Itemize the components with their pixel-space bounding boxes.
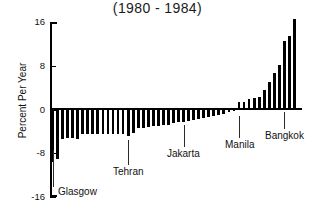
- chart-title: (1980 - 1984): [0, 0, 315, 16]
- bar: [197, 110, 200, 120]
- bar: [112, 110, 115, 134]
- annotation-label: Bangkok: [265, 130, 304, 141]
- y-axis-label: Percent Per Year: [17, 41, 28, 161]
- y-tick-label: -16: [0, 191, 45, 202]
- annotation-leader-line: [128, 140, 129, 165]
- bar: [91, 110, 94, 134]
- bar: [157, 110, 160, 126]
- bar: [228, 110, 231, 113]
- bar: [107, 110, 110, 134]
- annotation-leader-line: [284, 112, 285, 129]
- bar: [222, 110, 225, 114]
- bar: [117, 110, 120, 134]
- bar: [182, 110, 185, 122]
- bar: [66, 110, 69, 139]
- y-tick-mark: [50, 197, 56, 198]
- bar: [212, 110, 215, 117]
- y-tick-label: 16: [0, 16, 45, 27]
- bar: [177, 110, 180, 123]
- annotation-label: Manila: [225, 139, 254, 150]
- bar: [278, 65, 281, 109]
- bar: [152, 110, 155, 127]
- bar: [253, 98, 256, 109]
- bar: [167, 110, 170, 125]
- bar: [283, 41, 286, 110]
- bar: [288, 36, 291, 109]
- bar: [147, 110, 150, 128]
- annotation-label: Jakarta: [167, 148, 200, 159]
- bar: [71, 110, 74, 139]
- annotation-leader-line: [53, 150, 54, 187]
- y-tick-label: 0: [0, 104, 45, 115]
- bar: [96, 110, 99, 134]
- bar: [238, 102, 241, 110]
- bar: [192, 110, 195, 121]
- bar: [202, 110, 205, 119]
- bar: [137, 110, 140, 129]
- bar: [268, 82, 271, 110]
- bar: [127, 110, 130, 136]
- bar: [243, 102, 246, 110]
- bar: [248, 99, 251, 110]
- bar: [293, 19, 296, 109]
- bar: [217, 110, 220, 115]
- annotation-label: Glasgow: [58, 186, 97, 197]
- y-tick-label: -8: [0, 147, 45, 158]
- y-tick-label: 8: [0, 60, 45, 71]
- bar: [172, 110, 175, 123]
- bar: [187, 110, 190, 121]
- bar: [102, 110, 105, 134]
- bar: [233, 110, 236, 112]
- chart-container: (1980 - 1984) Percent Per Year 1680-8-16…: [0, 0, 315, 216]
- plot-area: [50, 22, 302, 197]
- bar: [81, 110, 84, 134]
- bar: [258, 97, 261, 110]
- bar: [122, 110, 125, 134]
- bar: [207, 110, 210, 118]
- bar: [61, 110, 64, 140]
- annotation-leader-line: [184, 125, 185, 147]
- bar: [76, 110, 79, 140]
- bar: [263, 90, 266, 110]
- bar: [86, 110, 89, 134]
- annotation-leader-line: [239, 116, 240, 138]
- bar: [142, 110, 145, 128]
- annotation-label: Tehran: [113, 166, 144, 177]
- bar: [132, 110, 135, 134]
- bar: [162, 110, 165, 126]
- bar: [56, 110, 59, 159]
- bar: [273, 73, 276, 109]
